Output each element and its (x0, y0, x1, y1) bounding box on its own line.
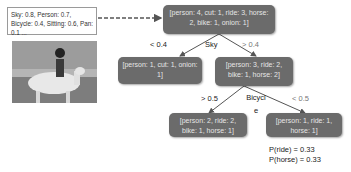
edge-label-gt-0.4: > 0.4 (242, 40, 259, 49)
left-child-node: [person: 1, cut: 1, onion: 1] (118, 57, 202, 84)
leaf-node-bicycle-low: [person: 1, ride: 1, horse: 1] (266, 113, 342, 137)
root-node: [person: 4, cut: 1, ride: 3, horse: 2, b… (163, 5, 275, 34)
feature-scores-box: Sky: 0.8, Person: 0.7, Bicycle: 0.4, Sit… (7, 7, 97, 35)
leaf-node-bicycle-high: [person: 2, ride: 2, bike: 1, horse: 1] (169, 113, 247, 137)
right-child-node: [person: 3, ride: 2, bike: 1, horse: 2] (215, 57, 293, 86)
probability-ride: P(ride) = 0.33 (269, 145, 315, 155)
split-feature-sky: Sky (205, 40, 218, 49)
split-feature-bicycle: Bicycl e (244, 91, 268, 117)
input-image (12, 41, 97, 103)
edge-label-lt-0.4: < 0.4 (150, 40, 167, 49)
probability-horse: P(horse) = 0.33 (269, 155, 321, 165)
edge-label-gt-0.5: > 0.5 (201, 94, 218, 103)
edge-label-lt-0.5: < 0.5 (292, 94, 309, 103)
